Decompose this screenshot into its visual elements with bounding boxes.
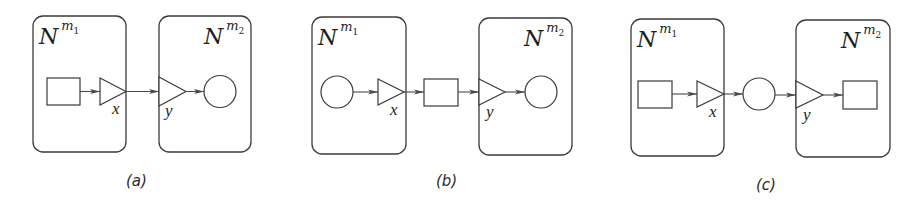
net-label-n-m2: Nm2	[203, 18, 244, 49]
caption-c: (c)	[756, 176, 776, 194]
transition-square	[843, 81, 877, 109]
caption-a: (a)	[126, 172, 147, 190]
transition-square	[424, 79, 458, 106]
transition-square	[638, 81, 672, 108]
port-label-y: y	[484, 102, 494, 121]
net-label-n-m1: Nm1	[38, 18, 79, 49]
place-circle	[204, 76, 236, 108]
place-circle	[743, 78, 775, 110]
net-label-n-m2: Nm2	[523, 20, 564, 51]
composition-diagram-figure: Nm1 x Nm2 y (a) Nm1 x Nm2 y	[0, 0, 923, 203]
place-circle	[525, 76, 557, 108]
caption-b: (b)	[436, 172, 457, 190]
port-label-x: x	[389, 100, 398, 119]
net-label-n-m2: Nm2	[840, 22, 881, 53]
transition-square	[47, 78, 80, 105]
port-label-y: y	[801, 105, 811, 124]
port-label-y: y	[163, 101, 173, 120]
net-label-n-m1: Nm1	[317, 19, 358, 50]
port-label-x: x	[111, 99, 120, 118]
panel-a: Nm1 x Nm2 y (a)	[33, 16, 251, 190]
input-port-triangle	[796, 81, 823, 108]
place-circle	[321, 76, 353, 108]
port-label-x: x	[708, 102, 717, 121]
panel-b: Nm1 x Nm2 y (b)	[312, 17, 572, 190]
net-label-n-m1: Nm1	[636, 21, 677, 52]
panel-c: Nm1 x Nm2 y (c)	[631, 19, 890, 194]
